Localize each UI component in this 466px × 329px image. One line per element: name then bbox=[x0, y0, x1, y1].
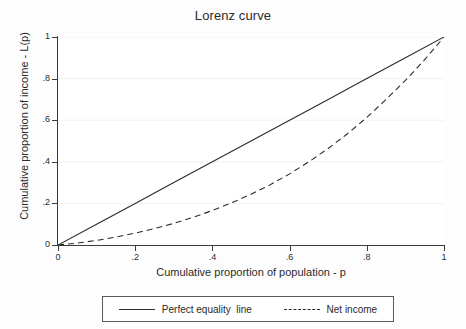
x-tick-mark bbox=[212, 246, 213, 251]
y-tick-mark bbox=[52, 120, 57, 121]
series-line-1 bbox=[58, 37, 444, 245]
x-tick-label: 1 bbox=[432, 252, 456, 262]
y-tick-label: 1 bbox=[28, 31, 50, 41]
x-tick-mark bbox=[444, 246, 445, 251]
y-axis-line bbox=[57, 36, 58, 246]
x-axis-line bbox=[57, 245, 445, 246]
x-tick-mark bbox=[367, 246, 368, 251]
plot-area bbox=[58, 37, 444, 245]
y-tick-label: .8 bbox=[28, 73, 50, 83]
x-tick-mark bbox=[135, 246, 136, 251]
y-tick-mark bbox=[52, 245, 57, 246]
y-tick-mark bbox=[52, 203, 57, 204]
legend-entry: Net income bbox=[284, 304, 378, 315]
chart-title: Lorenz curve bbox=[0, 8, 466, 23]
x-tick-mark bbox=[58, 246, 59, 251]
y-tick-label: 0 bbox=[28, 239, 50, 249]
y-axis-title: Cumulative proportion of income - L(p) bbox=[18, 16, 30, 236]
lorenz-curve-figure: Lorenz curve 0.2.4.6.81 0.2.4.6.81 Cumul… bbox=[0, 0, 466, 329]
legend: Perfect equality lineNet income bbox=[102, 296, 394, 322]
legend-label: Net income bbox=[327, 304, 378, 315]
plot-svg bbox=[58, 37, 444, 245]
x-tick-mark bbox=[290, 246, 291, 251]
x-tick-label: .4 bbox=[200, 252, 224, 262]
y-tick-label: .2 bbox=[28, 197, 50, 207]
y-tick-mark bbox=[52, 37, 57, 38]
y-tick-mark bbox=[52, 162, 57, 163]
legend-label: Perfect equality line bbox=[162, 304, 252, 315]
legend-line-key-solid bbox=[119, 309, 155, 310]
x-axis-title: Cumulative proportion of population - p bbox=[58, 266, 444, 278]
x-tick-label: .6 bbox=[278, 252, 302, 262]
x-tick-label: 0 bbox=[46, 252, 70, 262]
y-tick-label: .4 bbox=[28, 156, 50, 166]
series-paths bbox=[58, 37, 444, 245]
x-tick-label: .2 bbox=[123, 252, 147, 262]
y-tick-mark bbox=[52, 79, 57, 80]
legend-line-key-dashed bbox=[284, 309, 320, 310]
y-tick-label: .6 bbox=[28, 114, 50, 124]
legend-entry: Perfect equality line bbox=[119, 304, 252, 315]
x-tick-label: .8 bbox=[355, 252, 379, 262]
gridlines bbox=[58, 37, 444, 203]
